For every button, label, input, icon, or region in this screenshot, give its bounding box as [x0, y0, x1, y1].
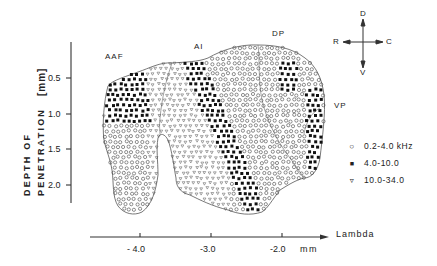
site-low-freq	[310, 171, 313, 174]
site-mid-freq	[227, 160, 230, 163]
site-low-freq	[139, 145, 142, 148]
site-low-freq	[219, 78, 222, 81]
site-mid-freq	[224, 145, 227, 148]
site-mid-freq	[195, 62, 198, 65]
site-high-freq	[176, 68, 179, 71]
site-high-freq	[149, 93, 152, 96]
site-high-freq	[162, 114, 165, 117]
site-low-freq	[287, 110, 290, 113]
site-low-freq	[302, 83, 305, 86]
site-high-freq	[200, 125, 203, 128]
site-mid-freq	[204, 94, 207, 97]
site-low-freq	[297, 98, 300, 101]
site-low-freq	[278, 182, 281, 185]
site-low-freq	[249, 88, 252, 91]
site-mid-freq	[243, 187, 246, 190]
site-high-freq	[197, 130, 200, 133]
orientation-compass	[343, 19, 383, 68]
site-low-freq	[298, 84, 301, 87]
site-low-freq	[244, 98, 247, 101]
site-low-freq	[144, 197, 147, 200]
site-high-freq	[166, 120, 169, 123]
site-mid-freq	[119, 114, 122, 117]
site-low-freq	[242, 103, 245, 106]
site-mid-freq	[141, 82, 144, 85]
site-low-freq	[224, 68, 227, 71]
site-high-freq	[188, 119, 191, 122]
site-high-freq	[168, 114, 171, 117]
site-high-freq	[177, 182, 180, 185]
site-high-freq	[171, 78, 174, 81]
site-mid-freq	[289, 67, 292, 70]
site-low-freq	[305, 171, 308, 174]
site-low-freq	[249, 114, 252, 117]
site-low-freq	[129, 141, 132, 144]
site-mid-freq	[112, 119, 115, 122]
site-mid-freq	[309, 134, 312, 137]
site-mid-freq	[116, 119, 119, 122]
site-high-freq	[186, 172, 189, 175]
site-low-freq	[140, 124, 143, 127]
site-low-freq	[303, 165, 306, 168]
site-high-freq	[185, 187, 188, 190]
site-high-freq	[147, 151, 150, 154]
site-mid-freq	[203, 67, 206, 70]
site-mid-freq	[194, 82, 197, 85]
site-low-freq	[299, 67, 302, 70]
site-low-freq	[265, 88, 268, 91]
site-mid-freq	[184, 62, 187, 65]
site-mid-freq	[314, 140, 317, 143]
site-mid-freq	[311, 120, 314, 123]
site-high-freq	[203, 183, 206, 186]
site-high-freq	[150, 68, 153, 71]
site-high-freq	[173, 100, 176, 103]
site-low-freq	[224, 78, 227, 81]
site-high-freq	[210, 151, 213, 154]
site-mid-freq	[290, 78, 293, 81]
site-low-freq	[120, 160, 123, 163]
site-mid-freq	[312, 94, 315, 97]
site-high-freq	[189, 141, 192, 144]
site-high-freq	[147, 135, 150, 138]
site-low-freq	[257, 182, 260, 185]
site-high-freq	[170, 129, 173, 132]
site-low-freq	[136, 161, 139, 164]
site-high-freq	[177, 94, 180, 97]
site-low-freq	[135, 176, 138, 179]
site-mid-freq	[114, 114, 117, 117]
site-mid-freq	[131, 83, 134, 86]
site-mid-freq	[120, 88, 123, 91]
site-low-freq	[262, 207, 265, 210]
site-high-freq	[195, 188, 198, 191]
legend-item-mid: ■4.0-10.0	[346, 158, 399, 168]
site-high-freq	[192, 156, 195, 159]
site-low-freq	[286, 141, 289, 144]
site-low-freq	[139, 207, 142, 210]
site-mid-freq	[186, 67, 189, 70]
site-high-freq	[176, 172, 179, 175]
site-high-freq	[182, 130, 185, 133]
site-low-freq	[302, 89, 305, 92]
site-mid-freq	[305, 93, 308, 96]
site-low-freq	[254, 166, 257, 169]
site-low-freq	[141, 161, 144, 164]
site-high-freq	[214, 198, 217, 201]
site-low-freq	[273, 156, 276, 159]
site-low-freq	[271, 140, 274, 143]
site-low-freq	[287, 124, 290, 127]
site-low-freq	[235, 208, 238, 211]
x-axis-arrowhead	[320, 235, 329, 240]
site-low-freq	[264, 151, 267, 154]
site-low-freq	[249, 46, 252, 49]
site-high-freq	[193, 93, 196, 96]
site-high-freq	[201, 141, 204, 144]
site-low-freq	[271, 109, 274, 112]
site-low-freq	[275, 141, 278, 144]
site-low-freq	[259, 82, 262, 85]
site-low-freq	[146, 193, 149, 196]
site-low-freq	[286, 167, 289, 170]
site-mid-freq	[206, 98, 209, 101]
site-mid-freq	[203, 77, 206, 80]
site-mid-freq	[239, 192, 242, 195]
site-low-freq	[264, 134, 267, 137]
